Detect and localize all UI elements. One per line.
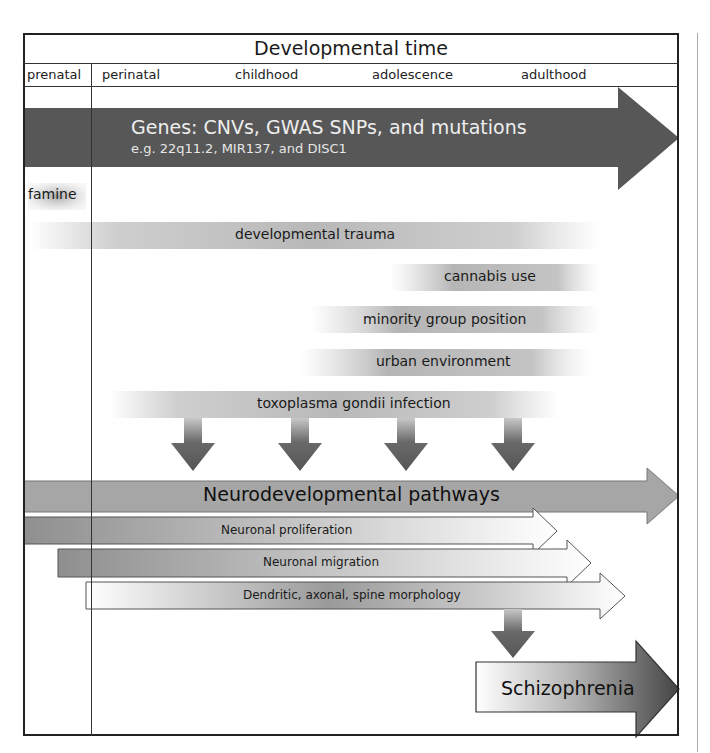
phase-perinatal: perinatal bbox=[102, 63, 160, 86]
outcome-schizophrenia: Schizophrenia bbox=[501, 677, 635, 699]
genes-title: Genes: CNVs, GWAS SNPs, and mutations bbox=[131, 116, 527, 138]
factor-developmental-trauma: developmental trauma bbox=[235, 226, 395, 242]
page-margin-rule bbox=[697, 33, 698, 752]
phase-prenatal: prenatal bbox=[27, 63, 81, 86]
factor-minority-group: minority group position bbox=[363, 311, 526, 327]
factor-famine: famine bbox=[28, 186, 77, 202]
pathways-title: Neurodevelopmental pathways bbox=[203, 483, 500, 505]
phase-adulthood: adulthood bbox=[521, 63, 587, 86]
phase-childhood: childhood bbox=[235, 63, 298, 86]
pathway-dendritic: Dendritic, axonal, spine morphology bbox=[243, 588, 461, 602]
diagram-frame bbox=[23, 33, 679, 736]
pathway-migration: Neuronal migration bbox=[263, 555, 379, 569]
factor-urban-environment: urban environment bbox=[376, 353, 511, 369]
phase-adolescence: adolescence bbox=[372, 63, 453, 86]
factor-cannabis-use: cannabis use bbox=[444, 268, 536, 284]
prenatal-divider bbox=[91, 63, 92, 736]
phase-row: prenatal perinatal childhood adolescence… bbox=[23, 63, 679, 87]
genes-subtitle: e.g. 22q11.2, MIR137, and DISC1 bbox=[131, 141, 347, 156]
factor-toxoplasma: toxoplasma gondii infection bbox=[257, 395, 451, 411]
timeline-title: Developmental time bbox=[23, 33, 679, 64]
pathway-proliferation: Neuronal proliferation bbox=[221, 523, 352, 537]
